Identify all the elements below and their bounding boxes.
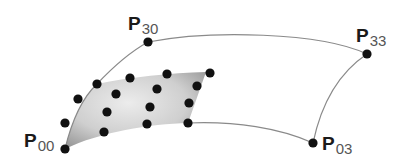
top-boundary-curve [148, 35, 367, 54]
label-letter: P [128, 13, 141, 34]
corner-point-p30 [143, 37, 152, 46]
control-point [162, 69, 171, 78]
control-point [152, 84, 161, 93]
label-p00: P00 [24, 131, 54, 150]
label-letter: P [322, 133, 335, 154]
corner-point-p03 [308, 138, 317, 147]
control-point [73, 94, 82, 103]
label-p03: P03 [322, 134, 352, 153]
label-subscript: 00 [38, 137, 55, 154]
control-point [125, 73, 134, 82]
control-point [142, 119, 151, 128]
control-point [184, 98, 193, 107]
right-boundary-curve [313, 54, 367, 143]
control-point [111, 89, 120, 98]
control-point [192, 81, 201, 90]
label-subscript: 03 [336, 140, 353, 157]
corner-point-p33 [362, 49, 371, 58]
label-subscript: 30 [142, 20, 159, 37]
label-letter: P [24, 130, 37, 151]
control-point [145, 102, 154, 111]
control-point [205, 68, 214, 77]
bezier-patch-diagram: P00P30P33P03 [0, 0, 413, 165]
corner-point-p00 [60, 144, 69, 153]
control-point [99, 127, 108, 136]
label-p30: P30 [128, 14, 158, 33]
control-point [102, 107, 111, 116]
label-subscript: 33 [370, 32, 387, 49]
label-letter: P [356, 25, 369, 46]
bottom-boundary-curve [188, 123, 313, 143]
shaded-subpatch [65, 72, 206, 149]
control-point [92, 79, 101, 88]
control-point [60, 118, 69, 127]
label-p33: P33 [356, 26, 386, 45]
control-point [183, 118, 192, 127]
